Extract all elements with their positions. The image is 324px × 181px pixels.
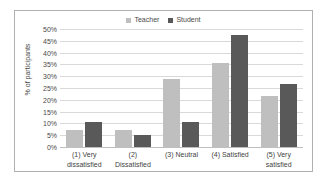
legend-entry[interactable]: Student [168,16,200,24]
bar-group [206,29,255,147]
category-label-line: (4) Satisfied [206,150,255,160]
x-axis-category-label: (5) Verysatisfied [254,150,303,169]
bar-teacher[interactable] [115,130,132,147]
bar-series-container [60,29,303,147]
legend-swatch-icon [126,18,131,23]
plot-area [60,29,303,147]
x-axis-category-label: (3) Neutral [157,150,206,160]
legend-entry[interactable]: Teacher [126,16,159,24]
y-axis-tick-labels: 50%45%40%35%30%25%20%15%10%5%0% [29,29,59,147]
y-axis-tick-label: 5% [47,132,57,139]
bar-group [60,29,109,147]
y-axis-tick-label: 30% [43,73,57,80]
x-axis-category-label: (1) Verydissatisfied [60,150,109,169]
legend-swatch-icon [168,18,173,23]
bar-student[interactable] [280,84,297,147]
bar-group [109,29,158,147]
y-axis-tick-label: 25% [43,85,57,92]
category-label-line: (3) Neutral [157,150,206,160]
category-label-line: Dissatisfied [109,160,158,170]
chart-frame: TeacherStudent % of participants 50%45%4… [14,10,313,172]
y-axis-tick-label: 15% [43,108,57,115]
bar-student[interactable] [134,135,151,147]
x-axis-category-labels: (1) Verydissatisfied(2)Dissatisfied(3) N… [60,150,303,180]
y-axis-tick-label: 20% [43,96,57,103]
x-axis-category-label: (4) Satisfied [206,150,255,160]
y-axis-tick-label: 50% [43,26,57,33]
category-label-line: satisfied [254,160,303,170]
y-axis-tick-label: 35% [43,61,57,68]
category-label-line: (2) [109,150,158,160]
chart-screenshot: TeacherStudent % of participants 50%45%4… [0,0,324,181]
bar-teacher[interactable] [212,63,229,147]
category-label-line: (5) Very [254,150,303,160]
bar-student[interactable] [231,35,248,147]
y-axis-tick-label: 45% [43,37,57,44]
legend-label: Teacher [134,16,159,24]
bar-group [157,29,206,147]
category-label-line: (1) Very [60,150,109,160]
y-axis-tick-label: 0% [47,144,57,151]
chart-legend: TeacherStudent [15,13,312,27]
bar-group [254,29,303,147]
bar-student[interactable] [182,122,199,147]
x-axis-category-label: (2)Dissatisfied [109,150,158,169]
bar-teacher[interactable] [163,79,180,147]
y-axis-tick-label: 40% [43,49,57,56]
bar-teacher[interactable] [66,130,83,147]
bar-teacher[interactable] [261,96,278,147]
category-label-line: dissatisfied [60,160,109,170]
gridline [60,147,303,148]
bar-student[interactable] [85,122,102,147]
legend-label: Student [176,16,200,24]
y-axis-tick-label: 10% [43,120,57,127]
